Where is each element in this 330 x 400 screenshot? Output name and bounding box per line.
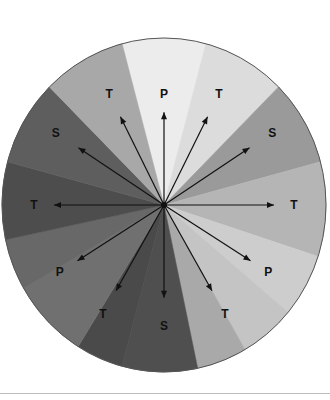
arrow-label: P [160,87,168,101]
arrow-label: T [215,87,223,101]
arrow-label: S [160,319,168,333]
arrow-label: S [52,126,60,140]
bottom-divider [0,393,330,394]
arrow-label: T [105,87,113,101]
center-hub [161,202,167,208]
arrow-label: P [264,265,272,279]
arrow-label: T [30,198,38,212]
arrow-label: T [221,307,229,321]
arrow-label: T [290,198,298,212]
arrow-label: T [99,307,107,321]
arrow-label: S [268,126,276,140]
arrow-label: P [56,265,64,279]
radial-diagram: PTSTPTSTPTST [0,0,330,400]
